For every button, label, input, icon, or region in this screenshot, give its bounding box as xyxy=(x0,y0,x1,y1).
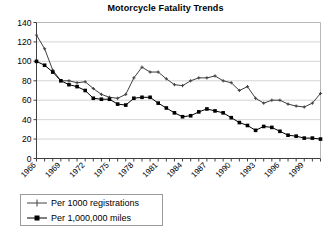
x-axis-tick-labels: 1966196919721975197819811984198719901993… xyxy=(19,160,306,179)
data-point-marker xyxy=(189,114,193,118)
data-point-marker xyxy=(311,136,315,140)
gridlines xyxy=(37,23,321,140)
y-tick-label: 80 xyxy=(22,76,32,86)
data-point-marker xyxy=(140,96,144,100)
data-point-marker xyxy=(92,96,96,100)
series-1 xyxy=(35,34,322,109)
x-tick-label: 1978 xyxy=(116,160,135,179)
series-line xyxy=(37,35,321,107)
data-point-marker xyxy=(319,137,323,141)
data-point-marker xyxy=(278,130,282,134)
data-point-marker xyxy=(181,115,185,119)
x-tick-label: 1987 xyxy=(189,160,208,179)
data-point-marker xyxy=(238,121,242,125)
data-point-marker xyxy=(197,110,201,114)
data-point-marker xyxy=(108,97,112,101)
data-point-marker xyxy=(83,89,87,93)
data-point-marker xyxy=(100,97,104,101)
data-series-layer xyxy=(35,34,323,141)
data-point-marker xyxy=(302,136,306,140)
y-tick-label: 120 xyxy=(17,37,31,47)
data-point-marker xyxy=(116,102,120,106)
data-point-marker xyxy=(59,79,63,83)
data-point-marker xyxy=(132,96,136,100)
y-axis-tick-labels: 020406080100120140 xyxy=(17,18,31,164)
x-tick-label: 1981 xyxy=(141,160,160,179)
axes xyxy=(37,23,321,159)
data-point-marker xyxy=(270,126,274,130)
legend-item-miles: Per 1,000,000 miles xyxy=(21,210,162,225)
x-tick-label: 1975 xyxy=(92,160,111,179)
x-tick-label: 1990 xyxy=(214,160,233,179)
data-point-marker xyxy=(254,129,258,133)
data-point-marker xyxy=(246,124,250,128)
x-tick-label: 1999 xyxy=(287,160,306,179)
data-point-marker xyxy=(75,85,79,89)
data-point-marker xyxy=(173,111,177,115)
x-tick-label: 1972 xyxy=(68,160,87,179)
data-point-marker xyxy=(294,134,298,138)
data-point-marker xyxy=(43,63,47,67)
legend-item-registrations: Per 1000 registrations xyxy=(21,195,162,210)
legend-marker-square-icon xyxy=(26,211,48,225)
data-point-marker xyxy=(51,70,55,74)
data-point-marker xyxy=(213,109,217,113)
data-point-marker xyxy=(205,107,209,111)
legend-label-registrations: Per 1000 registrations xyxy=(48,198,139,208)
data-point-marker xyxy=(262,125,266,129)
x-tick-label: 1996 xyxy=(262,160,281,179)
data-point-marker xyxy=(124,103,128,107)
x-tick-label: 1984 xyxy=(165,160,184,179)
data-point-marker xyxy=(156,101,160,105)
chart-figure: Motorcycle Fatality Trends 0204060801001… xyxy=(0,0,331,232)
x-tick-label: 1966 xyxy=(19,160,38,179)
data-point-marker xyxy=(67,83,71,87)
data-point-marker xyxy=(221,111,225,115)
x-tick-label: 1969 xyxy=(43,160,62,179)
data-point-marker xyxy=(229,116,233,120)
y-tick-label: 20 xyxy=(22,134,32,144)
data-point-marker xyxy=(148,96,152,100)
y-tick-label: 140 xyxy=(17,18,31,28)
x-tick-label: 1993 xyxy=(238,160,257,179)
data-point-marker xyxy=(35,60,39,64)
y-tick-label: 100 xyxy=(17,56,31,66)
legend-marker-plus-icon xyxy=(26,196,48,210)
y-tick-label: 40 xyxy=(22,115,32,125)
data-point-marker xyxy=(165,106,169,110)
chart-legend: Per 1000 registrations Per 1,000,000 mil… xyxy=(20,194,163,226)
legend-label-miles: Per 1,000,000 miles xyxy=(48,213,131,223)
y-tick-label: 60 xyxy=(22,95,32,105)
data-point-marker xyxy=(286,133,290,137)
